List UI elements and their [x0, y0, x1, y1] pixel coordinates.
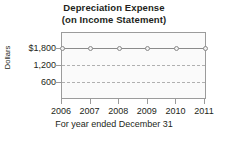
y-tick-label-1200: 1,200 — [12, 61, 56, 70]
series-line-depreciation-expense — [62, 48, 205, 49]
plot-area — [61, 32, 206, 99]
x-axis-title: For year ended December 31 — [0, 119, 228, 130]
x-tick-label-2011: 2011 — [187, 106, 221, 116]
y-tick-label-600: 600 — [12, 78, 56, 87]
depreciation-expense-chart: Depreciation Expense (on Income Statemen… — [0, 0, 228, 144]
y-axis-title: Dollars — [3, 38, 12, 78]
data-point-2011 — [203, 46, 208, 51]
x-tick-mark-2007 — [90, 99, 91, 104]
x-tick-mark-2010 — [175, 99, 176, 104]
y-tick-label-1800: $1,800 — [12, 44, 56, 53]
data-point-2007 — [88, 46, 93, 51]
data-point-2006 — [60, 46, 65, 51]
gridline-600 — [62, 82, 205, 83]
x-tick-mark-2008 — [118, 99, 119, 104]
x-tick-mark-2009 — [147, 99, 148, 104]
gridline-1200 — [62, 65, 205, 66]
x-tick-mark-2011 — [204, 99, 205, 104]
data-point-2010 — [174, 46, 179, 51]
data-point-2008 — [117, 46, 122, 51]
x-tick-mark-2006 — [61, 99, 62, 104]
data-point-2009 — [145, 46, 150, 51]
